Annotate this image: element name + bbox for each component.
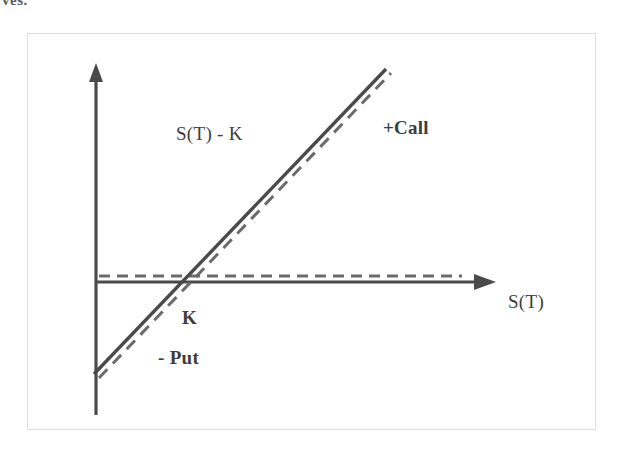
payoff-line-dashed bbox=[99, 73, 391, 378]
x-axis-arrow-icon bbox=[474, 274, 496, 290]
payoff-chart bbox=[0, 0, 620, 455]
x-axis-label: S(T) bbox=[508, 292, 544, 311]
intrinsic-value-label: S(T) - K bbox=[176, 124, 243, 143]
y-axis bbox=[89, 63, 103, 415]
put-leg-label: - Put bbox=[158, 348, 199, 367]
payoff-line-solid bbox=[94, 69, 386, 374]
call-leg-label: +Call bbox=[383, 118, 429, 137]
y-axis-arrow-icon bbox=[89, 63, 103, 82]
strike-label: K bbox=[182, 308, 197, 327]
